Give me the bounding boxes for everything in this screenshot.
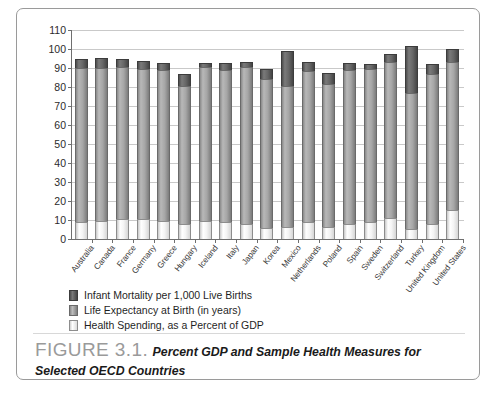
- bar-segment-infant[interactable]: [178, 74, 191, 86]
- x-tick-mark: [422, 239, 423, 243]
- bar-group[interactable]: [380, 30, 401, 239]
- stacked-bar[interactable]: [95, 58, 108, 239]
- stacked-bar[interactable]: [75, 59, 88, 239]
- bar-segment-infant[interactable]: [219, 63, 232, 70]
- bar-group[interactable]: [215, 30, 236, 239]
- bar-segment-infant[interactable]: [384, 54, 397, 62]
- stacked-bar[interactable]: [446, 49, 459, 239]
- bar-segment-life[interactable]: [116, 67, 129, 220]
- bar-segment-infant[interactable]: [405, 46, 418, 93]
- bar-segment-life[interactable]: [343, 70, 356, 224]
- bar-segment-infant[interactable]: [75, 59, 88, 69]
- bar-segment-life[interactable]: [405, 93, 418, 229]
- bar-group[interactable]: [71, 30, 92, 239]
- bar-segment-infant[interactable]: [137, 61, 150, 68]
- bar-group[interactable]: [422, 30, 443, 239]
- stacked-bar[interactable]: [302, 62, 315, 239]
- legend-item[interactable]: Infant Mortality per 1,000 Live Births: [69, 288, 369, 302]
- bar-segment-infant[interactable]: [322, 73, 335, 84]
- bar-group[interactable]: [319, 30, 340, 239]
- bar-group[interactable]: [236, 30, 257, 239]
- bar-group[interactable]: [154, 30, 175, 239]
- stacked-bar[interactable]: [157, 63, 170, 239]
- bar-group[interactable]: [401, 30, 422, 239]
- stacked-bar[interactable]: [281, 51, 294, 239]
- stacked-bar[interactable]: [116, 59, 129, 239]
- bar-group[interactable]: [112, 30, 133, 239]
- bar-segment-spend[interactable]: [281, 227, 294, 239]
- bar-segment-life[interactable]: [281, 86, 294, 228]
- bar-segment-spend[interactable]: [157, 221, 170, 239]
- bar-segment-spend[interactable]: [95, 221, 108, 239]
- bar-segment-life[interactable]: [240, 67, 253, 223]
- bar-segment-infant[interactable]: [157, 63, 170, 70]
- bar-segment-life[interactable]: [260, 79, 273, 228]
- bar-segment-life[interactable]: [75, 68, 88, 222]
- stacked-bar[interactable]: [178, 74, 191, 239]
- bar-group[interactable]: [360, 30, 381, 239]
- stacked-bar[interactable]: [343, 63, 356, 239]
- bar-segment-infant[interactable]: [95, 58, 108, 68]
- stacked-bar[interactable]: [426, 64, 439, 239]
- stacked-bar[interactable]: [260, 69, 273, 239]
- bar-group[interactable]: [92, 30, 113, 239]
- x-tick-mark: [463, 239, 464, 243]
- bar-segment-spend[interactable]: [260, 228, 273, 239]
- bar-segment-infant[interactable]: [302, 62, 315, 70]
- bar-segment-life[interactable]: [446, 62, 459, 210]
- stacked-bar[interactable]: [322, 73, 335, 239]
- stacked-bar[interactable]: [199, 63, 212, 239]
- chart-plot-area: 0102030405060708090100110 AustraliaCanad…: [17, 9, 481, 259]
- bar-group[interactable]: [298, 30, 319, 239]
- bar-segment-spend[interactable]: [384, 218, 397, 239]
- bar-group[interactable]: [442, 30, 463, 239]
- legend-item[interactable]: Life Expectancy at Birth (in years): [69, 303, 369, 317]
- bar-group[interactable]: [133, 30, 154, 239]
- stacked-bar[interactable]: [384, 54, 397, 239]
- bar-segment-life[interactable]: [364, 69, 377, 222]
- bar-segment-spend[interactable]: [322, 227, 335, 239]
- bar-segment-spend[interactable]: [446, 210, 459, 239]
- stacked-bar[interactable]: [405, 46, 418, 239]
- bar-segment-spend[interactable]: [240, 224, 253, 239]
- bar-segment-spend[interactable]: [178, 224, 191, 239]
- bar-segment-life[interactable]: [178, 86, 191, 224]
- bar-group[interactable]: [257, 30, 278, 239]
- bar-segment-spend[interactable]: [219, 222, 232, 239]
- bar-segment-life[interactable]: [322, 84, 335, 227]
- stacked-bar[interactable]: [137, 61, 150, 239]
- bar-segment-infant[interactable]: [426, 64, 439, 74]
- stacked-bar[interactable]: [240, 62, 253, 239]
- bar-segment-spend[interactable]: [75, 222, 88, 239]
- bar-group[interactable]: [339, 30, 360, 239]
- bar-segment-infant[interactable]: [260, 69, 273, 79]
- bar-segment-spend[interactable]: [364, 222, 377, 239]
- bar-segment-spend[interactable]: [199, 221, 212, 239]
- legend-item[interactable]: Health Spending, as a Percent of GDP: [69, 318, 369, 332]
- bar-group[interactable]: [195, 30, 216, 239]
- bar-group[interactable]: [174, 30, 195, 239]
- bar-segment-life[interactable]: [137, 69, 150, 219]
- bar-segment-spend[interactable]: [343, 224, 356, 239]
- bar-segment-infant[interactable]: [116, 59, 129, 66]
- x-tick-mark: [195, 239, 196, 243]
- bar-group[interactable]: [277, 30, 298, 239]
- bar-segment-spend[interactable]: [405, 229, 418, 239]
- legend-swatch-life: [69, 305, 78, 316]
- bar-segment-life[interactable]: [199, 67, 212, 221]
- bar-segment-life[interactable]: [384, 62, 397, 217]
- bar-segment-spend[interactable]: [426, 224, 439, 239]
- stacked-bar[interactable]: [364, 64, 377, 239]
- bar-segment-life[interactable]: [219, 70, 232, 223]
- bar-segment-life[interactable]: [157, 70, 170, 221]
- stacked-bar[interactable]: [219, 63, 232, 239]
- bar-segment-life[interactable]: [426, 74, 439, 224]
- bar-segment-spend[interactable]: [137, 219, 150, 239]
- bar-segment-infant[interactable]: [343, 63, 356, 70]
- bar-segment-infant[interactable]: [281, 51, 294, 85]
- bar-segment-spend[interactable]: [302, 222, 315, 239]
- bar-segment-spend[interactable]: [116, 219, 129, 239]
- bar-segment-life[interactable]: [95, 68, 108, 221]
- bar-segment-infant[interactable]: [446, 49, 459, 62]
- bar-segment-life[interactable]: [302, 71, 315, 222]
